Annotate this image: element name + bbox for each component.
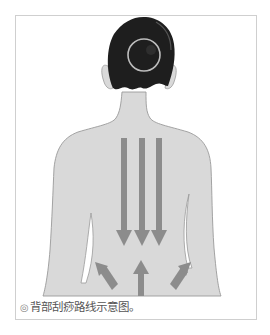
caption-text: 背部刮痧路线示意图。 [30,300,140,314]
hair [108,17,175,90]
figure-caption: ◎背部刮痧路线示意图。 [20,298,140,314]
back-illustration [0,0,270,335]
torso [43,92,221,296]
caption-bullet-icon: ◎ [20,302,29,313]
down-arrows [116,138,167,246]
